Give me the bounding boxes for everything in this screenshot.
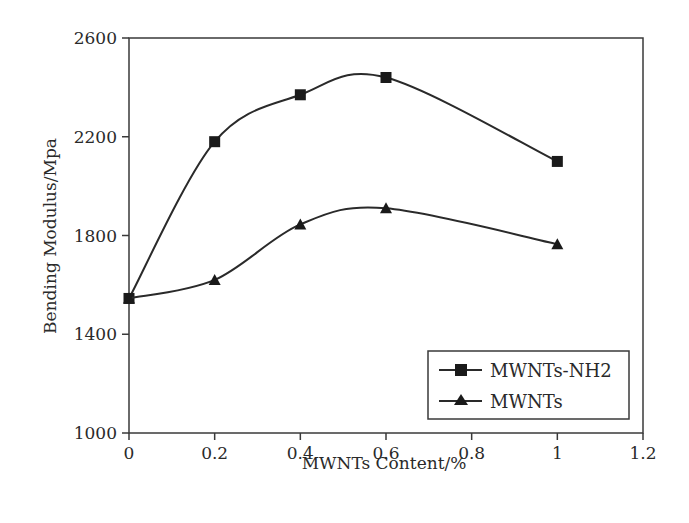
triangle-marker-icon	[454, 394, 468, 405]
y-tick-label: 2600	[74, 28, 117, 48]
y-tick-label: 1400	[74, 324, 117, 344]
y-axis-title: Bending Modulus/Mpa	[40, 138, 60, 334]
x-tick-label: 1.2	[629, 443, 656, 463]
triangle-marker-icon	[209, 274, 221, 285]
square-marker-icon	[455, 364, 467, 376]
y-axis: 10001400180022002600	[74, 28, 129, 443]
y-tick-label: 2200	[74, 127, 117, 147]
square-marker-icon	[295, 89, 306, 100]
legend-label-mwnts-nh2: MWNTs-NH2	[490, 360, 612, 381]
legend-item-mwnts-nh2: MWNTs-NH2	[439, 360, 612, 381]
y-tick-label: 1000	[74, 423, 117, 443]
square-marker-icon	[381, 72, 392, 83]
x-axis-title: MWNTs Content/%	[302, 453, 467, 473]
series-layer	[123, 72, 563, 304]
chart-canvas: 10001400180022002600 00.20.40.60.811.2 M…	[0, 0, 689, 523]
square-marker-icon	[552, 156, 563, 167]
legend-item-mwnts: MWNTs	[439, 391, 563, 412]
series-line	[129, 208, 557, 299]
legend-label-mwnts: MWNTs	[490, 391, 563, 412]
triangle-marker-icon	[294, 218, 306, 229]
legend: MWNTs-NH2 MWNTs	[428, 351, 629, 419]
square-marker-icon	[209, 136, 220, 147]
x-tick-label: 1	[552, 443, 563, 463]
x-tick-label: 0	[124, 443, 135, 463]
series-mwnts	[123, 202, 563, 303]
series-mwnts-nh2	[124, 72, 563, 304]
series-line	[129, 74, 557, 298]
y-tick-label: 1800	[74, 226, 117, 246]
x-tick-label: 0.2	[201, 443, 228, 463]
